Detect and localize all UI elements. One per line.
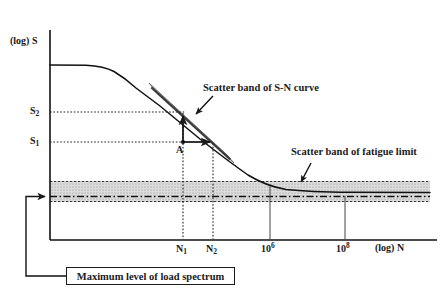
y-tick-label-s1: S1 bbox=[30, 136, 39, 146]
x-tick-label-10e8: 108 bbox=[336, 244, 350, 254]
y-tick-s1-sub: 1 bbox=[36, 139, 40, 148]
leader-arrow-scatter-band-sn bbox=[196, 96, 213, 114]
y-tick-s1-base: S bbox=[30, 135, 36, 146]
x-tick-n2-sub: 2 bbox=[213, 247, 217, 256]
caption-connector-line bbox=[26, 197, 66, 277]
x-tick-label-n1: N1 bbox=[176, 244, 187, 254]
y-tick-s2-sub: 2 bbox=[36, 109, 40, 118]
scatter-band-sn-curve-shape bbox=[149, 83, 234, 163]
x-tick-10e8-sup: 8 bbox=[346, 241, 350, 250]
caption-text: Maximum level of load spectrum bbox=[77, 271, 225, 282]
x-tick-n1-sub: 1 bbox=[183, 247, 187, 256]
x-tick-10e8-base: 10 bbox=[336, 243, 346, 254]
y-tick-label-s2: S2 bbox=[30, 106, 39, 116]
x-tick-label-n2: N2 bbox=[206, 244, 217, 254]
x-tick-label-10e6: 106 bbox=[261, 244, 275, 254]
x-axis-label: (log) N bbox=[375, 243, 404, 253]
annotation-scatter-band-fatigue-limit: Scatter band of fatigue limit bbox=[291, 147, 417, 158]
y-axis-label: (log) S bbox=[10, 36, 38, 46]
x-tick-10e6-sup: 6 bbox=[271, 241, 275, 250]
caption-box-maximum-load-spectrum: Maximum level of load spectrum bbox=[66, 267, 235, 285]
annotation-scatter-band-sn-curve: Scatter band of S-N curve bbox=[203, 83, 319, 94]
x-tick-10e6-base: 10 bbox=[261, 243, 271, 254]
projection-guidelines bbox=[50, 112, 213, 239]
y-tick-s2-base: S bbox=[30, 105, 36, 116]
scatter-band-fatigue-limit-shape bbox=[50, 181, 430, 202]
leader-arrow-scatter-band-fatigue bbox=[301, 163, 311, 182]
point-a-label: A bbox=[176, 145, 183, 155]
